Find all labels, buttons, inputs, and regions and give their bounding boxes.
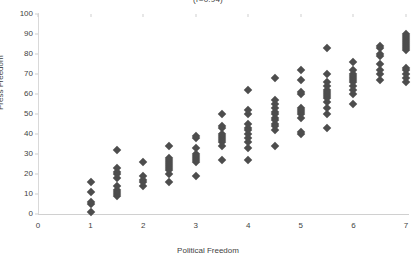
- chart-title: (r=0.94): [0, 0, 416, 4]
- y-tick-mark: [35, 214, 38, 215]
- x-tick-mark: [248, 14, 249, 17]
- x-tick-label: 4: [246, 222, 250, 230]
- data-point: [270, 74, 278, 82]
- x-tick-label: 7: [404, 222, 408, 230]
- x-axis-label: Political Freedom: [0, 246, 416, 255]
- data-point: [139, 158, 147, 166]
- x-tick-label: 3: [193, 222, 197, 230]
- y-tick-mark: [35, 94, 38, 95]
- data-point: [323, 124, 331, 132]
- plot-area: 0102030405060708090100 01234567: [38, 14, 406, 214]
- y-tick-mark: [35, 174, 38, 175]
- data-point: [244, 156, 252, 164]
- x-tick-mark: [406, 14, 407, 17]
- data-point: [270, 142, 278, 150]
- data-point: [113, 146, 121, 154]
- data-point: [375, 60, 383, 68]
- data-point: [86, 188, 94, 196]
- data-point: [323, 70, 331, 78]
- y-tick-mark: [35, 154, 38, 155]
- x-tick-label: 0: [36, 222, 40, 230]
- scatter-chart: (r=0.94) Press Freedom Political Freedom…: [0, 0, 416, 261]
- data-point: [86, 178, 94, 186]
- x-tick-mark: [195, 14, 196, 17]
- y-tick-mark: [35, 114, 38, 115]
- x-tick-mark: [353, 14, 354, 17]
- y-axis-label: Press Freedom: [0, 55, 5, 110]
- data-point: [349, 58, 357, 66]
- data-point: [349, 100, 357, 108]
- data-point: [323, 44, 331, 52]
- data-point: [218, 156, 226, 164]
- x-tick-label: 6: [351, 222, 355, 230]
- data-point: [191, 172, 199, 180]
- data-point: [165, 178, 173, 186]
- y-tick-mark: [35, 54, 38, 55]
- data-point: [297, 66, 305, 74]
- x-tick-label: 5: [299, 222, 303, 230]
- y-tick-mark: [35, 134, 38, 135]
- x-tick-label: 2: [141, 222, 145, 230]
- data-point: [165, 142, 173, 150]
- y-tick-mark: [35, 74, 38, 75]
- y-tick-mark: [35, 194, 38, 195]
- data-point: [297, 76, 305, 84]
- data-point: [191, 144, 199, 152]
- data-point: [218, 110, 226, 118]
- x-tick-mark: [90, 14, 91, 17]
- x-tick-label: 1: [88, 222, 92, 230]
- x-tick-mark: [143, 14, 144, 17]
- x-tick-mark: [38, 14, 39, 17]
- data-point: [244, 86, 252, 94]
- x-axis-line: [38, 214, 409, 215]
- x-tick-mark: [300, 14, 301, 17]
- y-tick-mark: [35, 34, 38, 35]
